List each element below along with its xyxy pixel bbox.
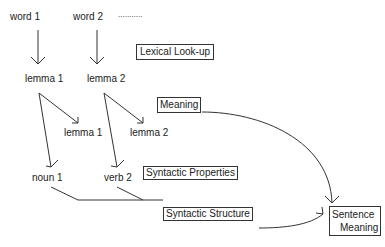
lemma-2-sub-label: lemma 2 bbox=[130, 127, 168, 139]
sentence-meaning-line2: Meaning bbox=[332, 221, 378, 234]
meaning-stage: Meaning bbox=[157, 97, 201, 113]
sentence-meaning-stage: Sentence Meaning bbox=[329, 206, 381, 236]
syntactic-structure-stage: Syntactic Structure bbox=[163, 207, 253, 221]
ellipsis-label: ........... bbox=[118, 9, 142, 21]
word-1-label: word 1 bbox=[10, 11, 40, 23]
lexical-lookup-stage: Lexical Look-up bbox=[136, 44, 214, 60]
syntactic-properties-stage: Syntactic Properties bbox=[143, 166, 238, 180]
word-2-label: word 2 bbox=[73, 11, 103, 23]
lemma-1-label: lemma 1 bbox=[25, 73, 63, 85]
noun-1-label: noun 1 bbox=[32, 172, 63, 184]
sentence-meaning-line1: Sentence bbox=[332, 208, 378, 221]
verb-2-label: verb 2 bbox=[104, 172, 132, 184]
lemma-2-label: lemma 2 bbox=[87, 73, 125, 85]
lemma-1-sub-label: lemma 1 bbox=[64, 127, 102, 139]
